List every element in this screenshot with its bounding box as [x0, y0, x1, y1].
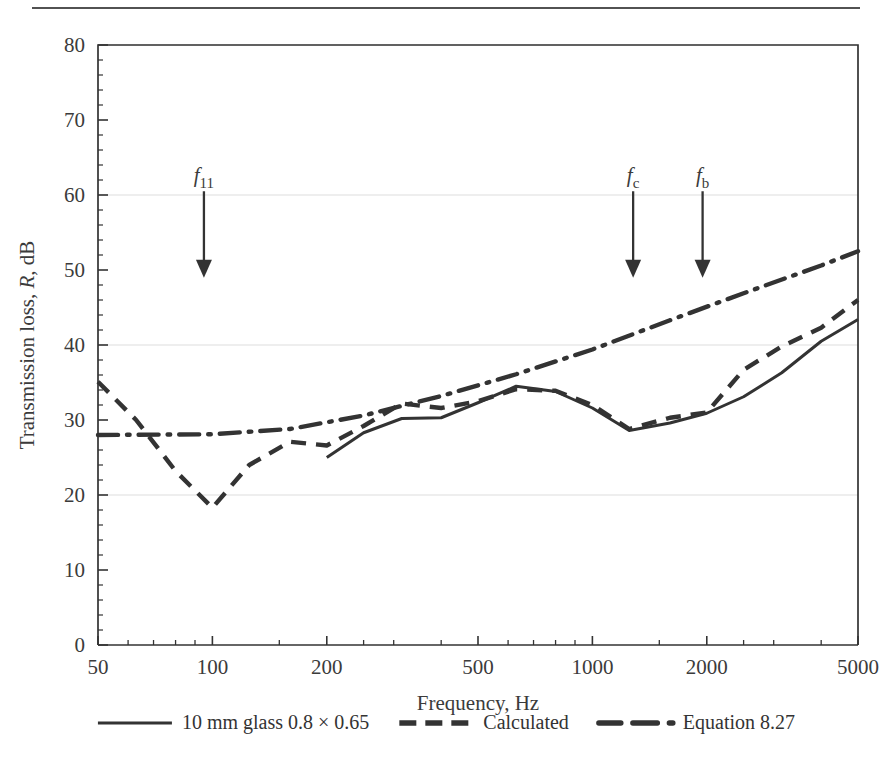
annotation-arrow-head	[695, 260, 711, 278]
y-tick-label: 50	[64, 258, 85, 282]
annotation-arrow-head	[625, 260, 641, 278]
y-axis-tick-labels: 01020304050607080	[64, 33, 85, 657]
x-tick-label: 500	[462, 655, 494, 679]
x-tick-label: 1000	[571, 655, 613, 679]
y-axis-title: Transmission loss, R, dB	[15, 241, 39, 450]
y-tick-label: 20	[64, 483, 85, 507]
y-tick-label: 60	[64, 183, 85, 207]
x-tick-label: 200	[311, 655, 343, 679]
transmission-loss-chart: 50100200500100020005000 0102030405060708…	[0, 0, 893, 784]
x-tick-label: 50	[88, 655, 109, 679]
series-line-3	[98, 251, 858, 435]
data-series-layer	[98, 251, 858, 508]
annotation-arrow-head	[196, 260, 212, 278]
legend-item: 10 mm glass 0.8 × 0.65	[98, 711, 369, 734]
y-axis-ticks	[98, 45, 108, 645]
x-tick-label: 5000	[837, 655, 879, 679]
y-tick-label: 30	[64, 408, 85, 432]
x-tick-label: 2000	[686, 655, 728, 679]
annotation-label-fb: fb	[696, 163, 709, 191]
legend-item: Equation 8.27	[599, 711, 795, 734]
legend-label: Calculated	[483, 711, 569, 733]
y-tick-label: 70	[64, 108, 85, 132]
x-axis-tick-labels: 50100200500100020005000	[88, 655, 880, 679]
series-line-1	[327, 320, 858, 458]
y-tick-label: 80	[64, 33, 85, 57]
legend-label: 10 mm glass 0.8 × 0.65	[182, 711, 369, 734]
annotation-arrows: f11fcfb	[194, 163, 711, 278]
annotation-label-fc: fc	[627, 163, 640, 191]
y-tick-label: 10	[64, 558, 85, 582]
y-tick-label: 40	[64, 333, 85, 357]
figure-page: 50100200500100020005000 0102030405060708…	[0, 0, 893, 784]
axis-titles: Frequency, HzTransmission loss, R, dB	[15, 241, 539, 715]
legend-label: Equation 8.27	[683, 711, 795, 734]
x-axis-ticks	[98, 636, 858, 645]
y-tick-label: 0	[75, 633, 86, 657]
grid-lines	[98, 45, 858, 495]
x-tick-label: 100	[197, 655, 229, 679]
annotation-label-f11: f11	[194, 163, 214, 191]
